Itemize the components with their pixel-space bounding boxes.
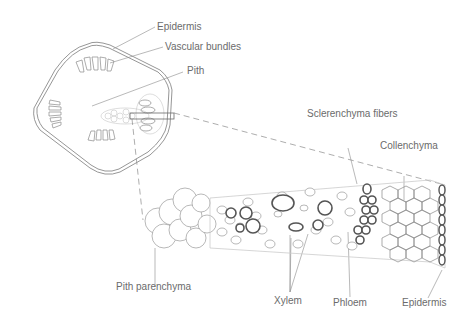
pith-parenchyma-cells	[145, 188, 216, 248]
label-sclerenchyma-fibers: Sclerenchyma fibers	[307, 108, 398, 120]
label-phloem: Phloem	[333, 297, 367, 309]
epidermis-cells	[439, 185, 445, 265]
label-vascular-bundles: Vascular bundles	[165, 41, 241, 53]
label-collenchyma: Collenchyma	[380, 140, 438, 152]
sclerenchyma-fibers	[354, 184, 378, 244]
label-xylem: Xylem	[274, 295, 302, 307]
leader-lines	[92, 27, 442, 298]
pith-cells-overview	[101, 94, 164, 134]
label-epidermis-overview: Epidermis	[157, 21, 201, 33]
collenchyma-cells	[382, 186, 438, 262]
vascular-bundles-overview	[49, 57, 155, 141]
label-pith-parenchyma: Pith parenchyma	[116, 281, 191, 293]
label-epidermis-detail: Epidermis	[402, 297, 446, 309]
label-pith: Pith	[187, 65, 204, 77]
